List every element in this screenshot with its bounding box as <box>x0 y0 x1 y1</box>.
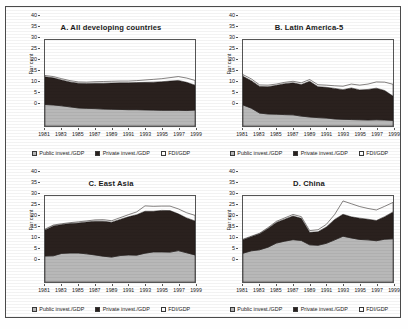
y-tick-label: 10 <box>211 78 235 84</box>
legend-label-private: Private invest./GDP <box>103 150 150 156</box>
figure-root: A. All developing countries Per cent 051… <box>0 0 408 329</box>
y-tick-label: 5 <box>211 245 235 251</box>
x-tick-label: 1997 <box>371 131 383 137</box>
y-tick-mark <box>236 26 238 27</box>
x-tick-label: 1997 <box>173 131 185 137</box>
plot-area <box>242 195 394 283</box>
x-tick-label: 1999 <box>388 131 400 137</box>
y-tick-mark <box>38 81 40 82</box>
x-tick-mark <box>44 128 45 130</box>
plot-box <box>242 195 394 283</box>
x-tick-label: 1983 <box>253 287 265 293</box>
y-tick-mark <box>236 237 238 238</box>
y-tick-mark <box>236 48 238 49</box>
y-tick-mark <box>236 226 238 227</box>
x-tick-label: 1985 <box>72 287 84 293</box>
x-tick-mark <box>394 128 395 130</box>
x-tick-label: 1991 <box>321 287 333 293</box>
y-tick-mark <box>236 81 238 82</box>
y-tick-mark <box>38 48 40 49</box>
x-tick-label: 1995 <box>354 287 366 293</box>
x-tick-mark <box>377 128 378 130</box>
x-tick-label: 1985 <box>72 131 84 137</box>
y-tick-mark <box>38 92 40 93</box>
y-tick-label: 25 <box>13 201 37 207</box>
x-tick-label: 1989 <box>304 131 316 137</box>
x-tick-mark <box>128 128 129 130</box>
figure-caption <box>16 311 396 319</box>
x-tick-mark <box>343 284 344 286</box>
x-tick-label: 1997 <box>173 287 185 293</box>
plot-area <box>242 39 394 127</box>
x-tick-mark <box>293 128 294 130</box>
x-tick-label: 1987 <box>89 287 101 293</box>
x-tick-label: 1993 <box>140 131 152 137</box>
x-tick-mark <box>162 284 163 286</box>
legend: Public invest./GDP Private invest./GDP F… <box>216 150 402 156</box>
y-tick-mark <box>38 259 40 260</box>
legend-swatch-fdi-icon <box>359 151 364 156</box>
panel-title: B. Latin America-5 <box>210 23 408 32</box>
y-tick-mark <box>236 59 238 60</box>
legend-item-fdi: FDI/GDP <box>359 150 388 156</box>
y-tick-mark <box>236 204 238 205</box>
legend-label-public: Public invest./GDP <box>39 150 84 156</box>
x-tick-label: 1987 <box>287 287 299 293</box>
y-tick-mark <box>236 171 238 172</box>
x-tick-label: 1989 <box>106 287 118 293</box>
area-series <box>243 76 393 120</box>
legend-item-public: Public invest./GDP <box>230 150 282 156</box>
x-tick-mark <box>310 128 311 130</box>
y-tick-mark <box>236 259 238 260</box>
x-tick-label: 1991 <box>321 131 333 137</box>
y-tick-mark <box>236 193 238 194</box>
y-tick-mark <box>38 248 40 249</box>
plot-box <box>44 39 196 127</box>
x-tick-mark <box>276 128 277 130</box>
y-tick-mark <box>236 92 238 93</box>
x-axis-ticks: 1981198319851987198919911993199519971999 <box>242 128 394 140</box>
x-tick-label: 1981 <box>236 287 248 293</box>
x-tick-mark <box>377 284 378 286</box>
y-tick-label: 20 <box>211 212 235 218</box>
x-tick-label: 1995 <box>354 131 366 137</box>
legend-item-private: Private invest./GDP <box>293 150 348 156</box>
y-tick-label: 15 <box>13 67 37 73</box>
x-tick-mark <box>326 128 327 130</box>
y-tick-mark <box>38 215 40 216</box>
x-tick-label: 1991 <box>123 287 135 293</box>
area-series <box>45 210 195 257</box>
y-tick-label: 40 <box>13 12 37 18</box>
x-tick-label: 1989 <box>106 131 118 137</box>
y-tick-mark <box>38 26 40 27</box>
x-tick-mark <box>242 284 243 286</box>
y-tick-label: 0 <box>211 256 235 262</box>
y-tick-mark <box>38 103 40 104</box>
y-tick-label: 10 <box>13 234 37 240</box>
y-tick-label: 30 <box>13 34 37 40</box>
stacked-area-chart <box>243 196 393 282</box>
y-tick-mark <box>38 226 40 227</box>
x-tick-label: 1991 <box>123 131 135 137</box>
x-tick-mark <box>78 284 79 286</box>
y-tick-mark <box>38 70 40 71</box>
legend-swatch-fdi-icon <box>161 151 166 156</box>
x-tick-mark <box>343 128 344 130</box>
stacked-area-chart <box>45 40 195 126</box>
y-axis-ticks: 0510152025303540 <box>10 11 40 107</box>
x-tick-mark <box>196 284 197 286</box>
legend-swatch-public-icon <box>230 151 235 156</box>
legend: Public invest./GDP Private invest./GDP F… <box>18 150 204 156</box>
y-tick-label: 40 <box>13 168 37 174</box>
x-tick-mark <box>95 284 96 286</box>
x-tick-mark <box>242 128 243 130</box>
legend-label-private: Private invest./GDP <box>301 150 348 156</box>
y-tick-mark <box>236 70 238 71</box>
x-tick-label: 1987 <box>89 131 101 137</box>
x-axis-ticks: 1981198319851987198919911993199519971999 <box>44 284 196 296</box>
x-tick-mark <box>360 284 361 286</box>
y-tick-label: 35 <box>211 23 235 29</box>
legend-label-fdi: FDI/GDP <box>168 150 190 156</box>
y-tick-label: 0 <box>13 256 37 262</box>
x-tick-label: 1999 <box>388 287 400 293</box>
